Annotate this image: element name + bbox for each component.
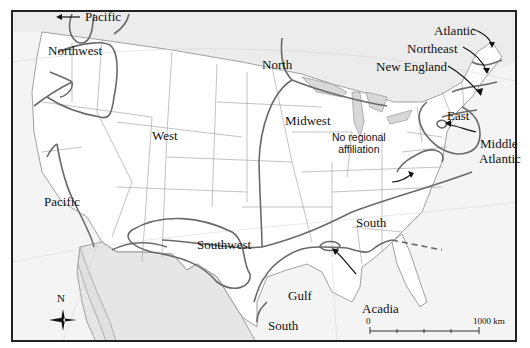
- label-east: East: [447, 109, 469, 122]
- compass-north-label: N: [57, 292, 65, 304]
- label-middle-atlantic-1: Middle: [480, 137, 518, 150]
- label-atlantic: Atlantic: [434, 24, 476, 37]
- annotation-line-2: affiliation: [332, 144, 386, 156]
- label-north: North: [262, 58, 292, 71]
- label-new-england: New England: [376, 60, 447, 73]
- label-northeast: Northeast: [407, 42, 458, 55]
- label-pacific-north: Pacific: [85, 10, 121, 23]
- label-south: South: [356, 216, 386, 229]
- label-northwest: Northwest: [48, 44, 102, 57]
- label-west: West: [152, 129, 178, 142]
- label-south-texas: South: [268, 319, 298, 332]
- label-gulf: Gulf: [288, 289, 312, 302]
- label-southwest: Southwest: [197, 238, 251, 251]
- scale-start-label: 0: [366, 316, 371, 326]
- label-middle-atlantic-2: Atlantic: [479, 152, 521, 165]
- label-acadia: Acadia: [362, 302, 399, 315]
- annotation-line-1: No regional: [332, 132, 386, 144]
- label-pacific-south: Pacific: [44, 195, 80, 208]
- label-midwest: Midwest: [285, 114, 331, 127]
- no-regional-affiliation-note: No regional affiliation: [332, 132, 386, 155]
- scale-end-label: 1000 km: [473, 316, 505, 326]
